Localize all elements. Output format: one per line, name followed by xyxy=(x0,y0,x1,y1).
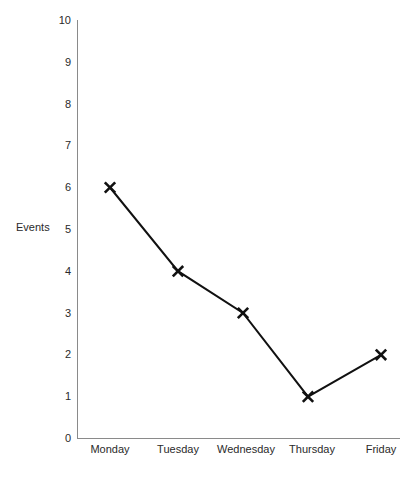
x-tick-label: Wednesday xyxy=(217,443,275,455)
data-point-marker xyxy=(173,266,183,276)
y-tick-label: 7 xyxy=(65,139,71,151)
x-tick-label: Monday xyxy=(90,443,130,455)
x-tick-label: Friday xyxy=(366,443,397,455)
data-series-line xyxy=(110,188,381,397)
x-tick-label: Thursday xyxy=(289,443,335,455)
line-chart: Events 10 9 8 7 6 5 4 3 2 1 0 Monday Tue… xyxy=(0,0,413,479)
y-tick-label: 8 xyxy=(65,98,71,110)
data-point-marker xyxy=(238,308,248,318)
y-tick-label: 1 xyxy=(65,390,71,402)
y-tick-label: 3 xyxy=(65,307,71,319)
y-tick-label: 6 xyxy=(65,181,71,193)
y-tick-label: 2 xyxy=(65,348,71,360)
data-point-marker xyxy=(376,350,386,360)
y-tick-label: 0 xyxy=(65,432,71,444)
y-tick-label: 10 xyxy=(59,14,71,26)
y-tick-label: 4 xyxy=(65,265,71,277)
chart-canvas: Events 10 9 8 7 6 5 4 3 2 1 0 Monday Tue… xyxy=(0,0,413,479)
y-tick-label: 9 xyxy=(65,56,71,68)
y-axis-title: Events xyxy=(16,221,50,233)
data-point-marker xyxy=(303,392,313,402)
y-tick-label: 5 xyxy=(65,223,71,235)
x-tick-label: Tuesday xyxy=(157,443,199,455)
data-point-marker xyxy=(105,182,115,192)
data-point-markers xyxy=(105,182,386,402)
